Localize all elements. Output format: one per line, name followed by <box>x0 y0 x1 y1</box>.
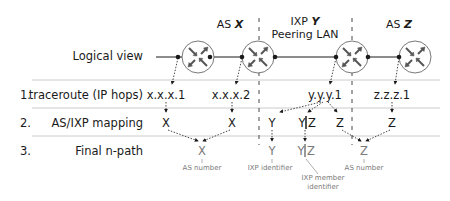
region-as-z: AS Z <box>386 18 413 31</box>
final-z: Z <box>360 144 368 158</box>
annotation-as-number-x: AS number <box>183 164 222 172</box>
row-label-logical-view: Logical view <box>73 49 143 63</box>
router-icon <box>399 41 431 73</box>
annotation-ixp-identifier: IXP identifier <box>248 164 293 172</box>
annotation-as-number-z: AS number <box>345 164 384 172</box>
hop-y1: y.y.y.1 <box>308 88 342 102</box>
hop-x2: x.x.x.2 <box>212 88 251 102</box>
row-label-mapping: AS/IXP mapping <box>51 116 143 130</box>
final-y: Y <box>267 144 276 158</box>
map-z1: Z <box>336 116 344 130</box>
row-number-mapping: 2. <box>20 116 31 130</box>
map-x2: X <box>228 116 236 130</box>
map-yz-y: Y <box>297 116 306 130</box>
final-x: X <box>198 144 206 158</box>
hop-x1: x.x.x.1 <box>147 88 186 102</box>
router-icon <box>336 41 368 73</box>
annotation-ixp-member-1: IXP member <box>302 174 345 182</box>
map-z2: Z <box>388 116 396 130</box>
region-as-x: AS X <box>217 18 244 31</box>
router-icon <box>242 41 274 73</box>
map-yz-z: Z <box>308 116 316 130</box>
row-number-final: 3. <box>20 144 31 158</box>
annotation-ixp-member-2: identifier <box>307 183 339 191</box>
n-path-diagram: AS X IXP Y Peering LAN AS Z Logical view… <box>0 0 450 201</box>
row-label-traceroute: traceroute (IP hops) <box>29 88 143 102</box>
map-y: Y <box>267 116 276 130</box>
final-yz-z: Z <box>307 144 315 158</box>
hop-z1: z.z.z.1 <box>374 88 410 102</box>
row-label-final: Final n-path <box>75 144 143 158</box>
region-ixp-y-lan: Peering LAN <box>272 28 339 41</box>
final-yz-y: Y <box>296 144 305 158</box>
map-x1: X <box>162 116 170 130</box>
region-ixp-y: IXP Y <box>291 15 321 28</box>
